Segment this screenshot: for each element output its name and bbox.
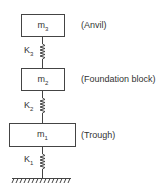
spring-label-k1: K1	[24, 155, 33, 166]
ground-hatch	[12, 179, 71, 184]
description-trough: (Trough)	[81, 131, 115, 140]
description-anvil: (Anvil)	[81, 21, 107, 30]
description-foundation-block: (Foundation block)	[81, 75, 156, 84]
mass-symbol: m	[38, 20, 46, 30]
spring-label-k2: K2	[24, 101, 33, 112]
spring-label-k3: K3	[24, 46, 33, 57]
mass-subscript: 3	[45, 26, 48, 32]
spring-k1	[40, 147, 45, 179]
spring-subscript: 2	[30, 106, 33, 112]
mass-subscript: 2	[45, 80, 48, 86]
spring-k2	[40, 91, 45, 124]
mass-symbol: m	[37, 129, 45, 139]
mass-subscript: 1	[45, 135, 48, 141]
mass-label-m3: m3	[21, 21, 65, 32]
spring-subscript: 3	[30, 51, 33, 57]
mass-symbol: m	[38, 74, 46, 84]
spring-k3	[40, 37, 45, 69]
spring-subscript: 1	[30, 160, 33, 166]
mass-label-m2: m2	[21, 75, 65, 86]
mass-label-m1: m1	[9, 130, 76, 141]
